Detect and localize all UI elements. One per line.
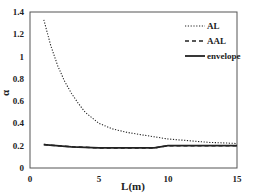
y-axis-label: α (0, 89, 11, 96)
chart: 00.20.40.60.811.21.4 051015 L(m) α ALAAL… (0, 0, 255, 196)
y-tick-label: 0.2 (13, 141, 25, 151)
y-tick-label: 0 (20, 163, 25, 173)
y-tick-label: 1.2 (13, 29, 25, 39)
x-tick-label: 10 (164, 174, 174, 184)
y-tick-label: 0.8 (13, 74, 25, 84)
series-envelope-line (44, 145, 237, 148)
x-tick-label: 5 (97, 174, 102, 184)
y-tick-label: 0.4 (13, 118, 25, 128)
legend-label: AAL (207, 36, 226, 46)
x-tick-label: 0 (28, 174, 33, 184)
x-axis-label: L(m) (121, 180, 145, 193)
y-tick-label: 0.6 (13, 96, 25, 106)
y-tick-label: 1 (20, 52, 25, 62)
legend-label: envelope (207, 51, 241, 61)
x-tick-label: 15 (233, 174, 243, 184)
y-axis-ticks: 00.20.40.60.811.21.4 (13, 7, 25, 173)
legend: ALAALenvelope (185, 21, 241, 61)
legend-label: AL (207, 21, 220, 31)
chart-svg: 00.20.40.60.811.21.4 051015 L(m) α ALAAL… (0, 0, 255, 196)
y-tick-label: 1.4 (13, 7, 25, 17)
plot-frame (30, 12, 237, 168)
